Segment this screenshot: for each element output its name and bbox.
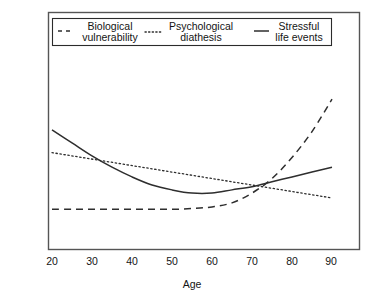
legend-label-stressful-line1: Stressful [279, 20, 320, 32]
x-tick-50: 50 [166, 255, 178, 267]
chart-legend: Biological vulnerability Psychological d… [53, 19, 332, 46]
legend-label-biological-line2: vulnerability [82, 31, 138, 43]
legend-label-biological-line1: Biological [88, 20, 133, 32]
x-tick-80: 80 [286, 255, 298, 267]
x-tick-20: 20 [46, 255, 58, 267]
legend-label-psychological-line1: Psychological [169, 20, 233, 32]
x-axis-title: Age [183, 278, 202, 290]
x-tick-30: 30 [86, 255, 98, 267]
line-chart: Biological vulnerability Psychological d… [0, 0, 375, 307]
x-tick-60: 60 [206, 255, 218, 267]
legend-label-stressful-line2: life events [275, 31, 322, 43]
legend-label-psychological-line2: diathesis [180, 31, 221, 43]
chart-figure: Biological vulnerability Psychological d… [0, 0, 375, 307]
x-tick-40: 40 [126, 255, 138, 267]
x-tick-90: 90 [325, 255, 337, 267]
x-tick-70: 70 [246, 255, 258, 267]
